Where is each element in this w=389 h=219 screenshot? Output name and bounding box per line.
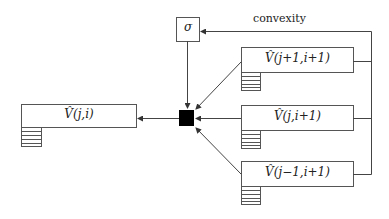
node-lower-label: V̂(j−1,i+1) — [241, 165, 354, 179]
sigma-label: σ — [176, 20, 200, 34]
combiner-node — [179, 110, 194, 126]
node-upper-label: V̂(j+1,i+1) — [241, 51, 354, 65]
node-target-label: V̂(j,i) — [21, 107, 137, 121]
stack-icons — [22, 73, 261, 205]
convexity-label: convexity — [253, 12, 306, 25]
node-middle-label: V̂(j,i+1) — [241, 109, 354, 123]
